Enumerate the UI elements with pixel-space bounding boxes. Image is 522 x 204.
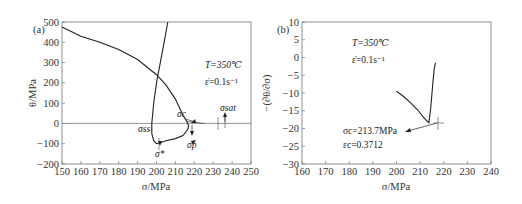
sigma-c-value-label: σc=213.7MPa: [343, 126, 398, 136]
x-axis-label-b: σ/MPa: [382, 181, 411, 192]
temperature-annotation-a: T=350℃: [205, 60, 242, 70]
panel-label-b: (b): [277, 24, 290, 36]
svg-text:240: 240: [224, 166, 240, 177]
svg-text:230: 230: [460, 166, 476, 177]
svg-text:400: 400: [43, 37, 59, 48]
svg-text:10: 10: [289, 17, 300, 28]
svg-text:180: 180: [341, 166, 357, 177]
svg-text:230: 230: [205, 166, 221, 177]
sigma-sat-label: σsat: [220, 103, 236, 113]
temperature-annotation-b: T=350℃: [352, 38, 389, 48]
figure: 1501601701801902002102202302402505004003…: [0, 0, 522, 204]
svg-text:210: 210: [412, 166, 428, 177]
svg-text:100: 100: [43, 98, 59, 109]
panel-label-a: (a): [33, 24, 45, 36]
svg-text:220: 220: [186, 166, 202, 177]
sigma-p-label: σp: [187, 140, 197, 150]
svg-text:190: 190: [365, 166, 381, 177]
axis-ticks-a: 1501601701801902002102202302402505004003…: [37, 17, 259, 178]
svg-text:−30: −30: [283, 159, 299, 170]
strain-rate-annotation-b: ε̇=0.1s⁻¹: [352, 55, 385, 65]
sigma-star-label: σ*: [155, 149, 165, 159]
sigma-c-label: σc: [177, 109, 187, 119]
svg-text:5: 5: [294, 34, 299, 45]
svg-text:250: 250: [243, 166, 259, 177]
theta-curve: [62, 22, 189, 144]
svg-text:170: 170: [318, 166, 334, 177]
svg-text:210: 210: [168, 166, 184, 177]
axis-ticks-b: 1601701801902002102202302401050−5−10−15−…: [283, 17, 499, 178]
svg-text:−100: −100: [37, 138, 59, 149]
svg-text:−15: −15: [283, 105, 299, 116]
strain-rate-annotation-a: ε̇=0.1s⁻¹: [205, 77, 238, 87]
svg-text:240: 240: [483, 166, 499, 177]
panel-b: 1601701801902002102202302401050−5−10−15−…: [261, 17, 499, 193]
svg-text:−10: −10: [283, 88, 299, 99]
svg-text:160: 160: [73, 166, 89, 177]
svg-text:200: 200: [43, 77, 59, 88]
arrow-icon: [405, 128, 411, 132]
svg-text:0: 0: [54, 118, 59, 129]
svg-text:220: 220: [436, 166, 452, 177]
svg-text:−5: −5: [288, 70, 299, 81]
svg-text:300: 300: [43, 57, 59, 68]
plot-frame-a: [62, 22, 251, 164]
sigma-ss-label: σss: [138, 124, 150, 134]
svg-text:−20: −20: [283, 123, 299, 134]
svg-text:0: 0: [294, 52, 299, 63]
svg-text:500: 500: [43, 17, 59, 28]
x-axis-label-a: σ/MPa: [142, 181, 171, 192]
panel-a: 1501601701801902002102202302402505004003…: [27, 17, 259, 193]
y-axis-label-a: θ/MPa: [27, 79, 38, 107]
svg-text:−200: −200: [37, 159, 59, 170]
svg-text:−25: −25: [283, 141, 299, 152]
epsilon-c-value-label: εc=0.3712: [343, 140, 383, 150]
svg-text:180: 180: [111, 166, 127, 177]
svg-text:170: 170: [92, 166, 108, 177]
derivative-curve: [397, 63, 436, 123]
svg-text:190: 190: [130, 166, 146, 177]
svg-text:200: 200: [389, 166, 405, 177]
plot-frame-b: [302, 22, 491, 164]
arrow-icon: [190, 131, 194, 136]
svg-text:200: 200: [149, 166, 165, 177]
y-axis-label-b: −(∂θ/∂σ): [261, 74, 273, 111]
